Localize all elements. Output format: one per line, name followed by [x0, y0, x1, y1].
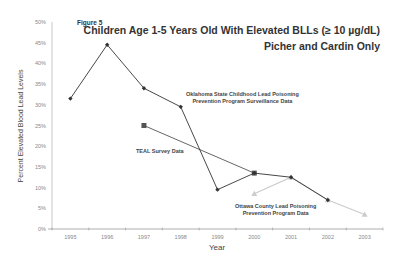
annotation-ottawa: Ottawa County Lead Poisoning Prevention …: [235, 203, 316, 217]
x-tick-label: 2000: [248, 234, 260, 240]
y-tick-label: 25%: [35, 123, 46, 129]
square-marker: [141, 123, 146, 128]
series-layer: [68, 43, 367, 217]
x-axis-label: Year: [209, 243, 225, 252]
x-tick-label: 1998: [175, 234, 187, 240]
x-tick-label: 1996: [101, 234, 113, 240]
x-tick-label: 1997: [138, 234, 150, 240]
chart-title: Children Age 1-5 Years Old With Elevated…: [84, 24, 380, 36]
axes: 0%5%10%15%20%25%30%35%40%45%50%199519961…: [35, 19, 383, 240]
diamond-marker: [215, 187, 219, 191]
series-diamond: [68, 43, 330, 203]
y-axis-label: Percent Elevated Blood Lead Levels: [17, 70, 24, 183]
x-tick-label: 2003: [358, 234, 370, 240]
diamond-marker: [179, 105, 183, 109]
y-tick-label: 45%: [35, 40, 46, 46]
annotation-teal: TEAL Survey Data: [136, 148, 184, 155]
x-tick-label: 1999: [211, 234, 223, 240]
y-tick-label: 10%: [35, 185, 46, 191]
y-tick-label: 35%: [35, 81, 46, 87]
y-tick-label: 40%: [35, 60, 46, 66]
x-tick-label: 1995: [64, 234, 76, 240]
x-tick-label: 2002: [322, 234, 334, 240]
y-tick-label: 30%: [35, 102, 46, 108]
x-tick-label: 2001: [285, 234, 297, 240]
line-chart: 0%5%10%15%20%25%30%35%40%45%50%199519961…: [0, 0, 404, 260]
y-tick-label: 5%: [38, 205, 46, 211]
y-tick-label: 20%: [35, 143, 46, 149]
y-tick-label: 50%: [35, 19, 46, 25]
y-tick-label: 0%: [38, 226, 46, 232]
y-tick-label: 15%: [35, 164, 46, 170]
chart-subtitle: Picher and Cardin Only: [264, 40, 380, 52]
annotation-oklahoma: Oklahoma State Childhood Lead Poisoning …: [186, 91, 299, 105]
